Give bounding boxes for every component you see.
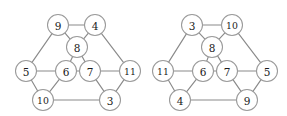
graph-edge-11-4 [168, 80, 174, 91]
graph-edge-6-10 [50, 79, 60, 92]
node-circle-3 [182, 15, 203, 36]
graph-node-5: 5 [16, 61, 37, 82]
graph-edge-11-3 [116, 80, 124, 92]
graph-node-11: 11 [120, 61, 141, 82]
right-graph-edges [168, 25, 261, 100]
graph-node-4: 4 [170, 90, 191, 111]
graph-node-3: 3 [182, 15, 203, 36]
left-graph-nodes: 94856711103 [16, 15, 141, 111]
graph-edge-7-9 [233, 80, 241, 92]
node-circle-8 [202, 37, 223, 58]
graph-edge-9-5 [32, 34, 52, 63]
node-circle-6 [56, 61, 77, 82]
graph-edge-8-7 [218, 56, 222, 62]
node-circle-5 [257, 61, 278, 82]
node-circle-8 [67, 37, 88, 58]
graph-node-9: 9 [48, 15, 69, 36]
graph-edge-9-8 [65, 33, 70, 39]
graph-node-8: 8 [67, 37, 88, 58]
graph-node-7: 7 [217, 61, 238, 82]
graph-edge-5-10 [31, 80, 37, 91]
node-circle-9 [48, 15, 69, 36]
graph-figure: 9485671110331081167549 [0, 0, 287, 116]
graph-node-9: 9 [237, 90, 258, 111]
node-circle-9 [237, 90, 258, 111]
graph-node-8: 8 [202, 37, 223, 58]
node-circle-10 [222, 15, 243, 36]
graph-edge-8-6 [70, 57, 72, 62]
graph-edge-7-3 [96, 80, 104, 92]
graph-node-5: 5 [257, 61, 278, 82]
node-circle-4 [85, 15, 106, 36]
graph-node-10: 10 [33, 90, 54, 111]
node-circle-7 [80, 61, 101, 82]
node-circle-6 [193, 61, 214, 82]
graph-edge-8-7 [82, 56, 85, 62]
graph-node-10: 10 [222, 15, 243, 36]
graph-edge-4-8 [84, 33, 89, 39]
graph-node-6: 6 [193, 61, 214, 82]
right-graph-nodes: 31081167549 [153, 15, 278, 111]
graph-node-4: 4 [85, 15, 106, 36]
graph-canvas: 9485671110331081167549 [0, 0, 287, 116]
graph-node-11: 11 [153, 61, 174, 82]
graph-node-7: 7 [80, 61, 101, 82]
graph-edge-10-8 [219, 33, 225, 39]
graph-node-3: 3 [100, 90, 121, 111]
graph-edge-3-8 [199, 33, 205, 39]
node-circle-11 [153, 61, 174, 82]
nodes-layer: 9485671110331081167549 [16, 15, 278, 111]
node-circle-4 [170, 90, 191, 111]
graph-edge-10-5 [238, 33, 260, 62]
graph-edge-8-6 [207, 57, 209, 61]
node-circle-3 [100, 90, 121, 111]
node-circle-5 [16, 61, 37, 82]
graph-edge-5-9 [253, 80, 261, 92]
graph-node-6: 6 [56, 61, 77, 82]
graph-edge-6-4 [187, 79, 197, 92]
node-circle-11 [120, 61, 141, 82]
node-circle-10 [33, 90, 54, 111]
graph-edge-4-11 [101, 33, 123, 62]
graph-edge-3-11 [169, 34, 187, 62]
node-circle-7 [217, 61, 238, 82]
